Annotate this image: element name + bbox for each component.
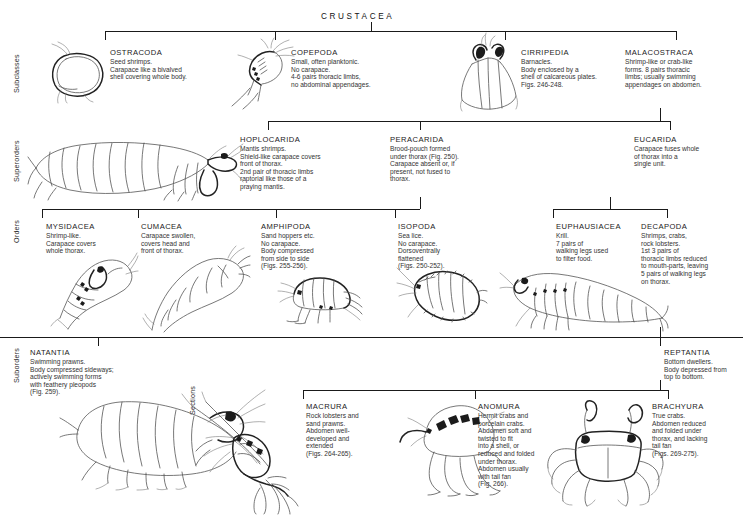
order-tick-isopoda (395, 209, 396, 218)
taxon-desc: Swimming prawns. Body compressed sideway… (30, 358, 114, 396)
taxon-cumacea: CUMACEA Carapace swollen, covers head an… (141, 222, 195, 255)
taxon-hoplocarida: HOPLOCARIDA Mantis shrimps. Shield-like … (240, 135, 321, 191)
subclass-tick-copepoda (275, 31, 276, 40)
crab-illustration (546, 400, 664, 506)
taxon-brachyura: BRACHYURA True crabs. Abdomen reduced an… (652, 402, 707, 458)
order-tick-euphausiacea (553, 209, 554, 218)
section-connector-bar (303, 390, 668, 391)
superorder-tick-hoplocarida (268, 121, 269, 130)
rank-label-superorders: Superorders (12, 140, 21, 182)
taxon-ostracoda: OSTRACODA Seed shrimps. Carapace like a … (110, 48, 187, 81)
section-tick-anomura (475, 390, 476, 399)
taxon-name: MALACOSTRACA (625, 48, 702, 57)
taxon-desc: Shrimp-like or crab-like forms. 8 pairs … (625, 58, 702, 88)
taxon-natantia: NATANTIA Swimming prawns. Body compresse… (30, 348, 114, 396)
subclass-tick-malacostraca (676, 31, 677, 40)
subclass-tick-ostracoda (105, 31, 106, 40)
rank-label-suborders: Suborders (12, 348, 21, 383)
taxon-name: AMPHIPODA (261, 222, 315, 231)
taxon-name: DECAPODA (641, 222, 708, 231)
taxon-peracarida: PERACARIDA Brood-pouch formed under thor… (390, 135, 459, 183)
taxon-amphipoda: AMPHIPODA Sand hoppers etc. No carapace.… (261, 222, 315, 270)
eucarida-stem (610, 197, 611, 209)
taxon-decapoda: DECAPODA Shrimps, crabs, rock lobsters. … (641, 222, 708, 285)
taxon-eucarida: EUCARIDA Carapace fuses whole of thorax … (634, 135, 699, 168)
taxon-name: REPTANTIA (664, 348, 727, 357)
taxon-name: ANOMURA (478, 402, 534, 411)
taxon-desc: Barnacles. Body enclosed by a shell of c… (521, 58, 597, 88)
taxon-name: MYSIDACEA (46, 222, 96, 231)
isopod-illustration (393, 262, 487, 326)
taxon-desc: Rock lobsters and sand prawns. Abdomen w… (306, 412, 359, 458)
peracarida-stem (420, 197, 421, 209)
subclass-tick-cirripedia (505, 31, 506, 40)
taxon-desc: Bottom dwellers. Body depressed from top… (664, 358, 727, 381)
taxon-name: EUCARIDA (634, 135, 699, 144)
rock-lobster-illustration (182, 392, 310, 514)
taxon-mysidacea: MYSIDACEA Shrimp-like. Carapace covers w… (46, 222, 96, 255)
rank-label-orders: Orders (12, 220, 21, 243)
taxon-name: ISOPODA (398, 222, 445, 231)
taxon-desc: Carapace swollen, covers head and front … (141, 232, 195, 255)
crustacea-classification-diagram: CRUSTACEA Subclasses Superorders Orders … (0, 0, 743, 515)
taxon-name: MACRURA (306, 402, 359, 411)
taxon-name: OSTRACODA (110, 48, 187, 57)
order-tick-decapoda (667, 209, 668, 218)
rank-label-subclasses: Subclasses (12, 54, 21, 93)
superorder-connector-bar (268, 121, 671, 122)
taxon-desc: Shrimps, crabs, rock lobsters. 1st 3 pai… (641, 232, 708, 285)
decapoda-stem (660, 327, 661, 337)
mysid-illustration (38, 252, 138, 330)
mantis-shrimp-illustration (28, 130, 243, 202)
ostracod-illustration (44, 42, 114, 104)
taxon-desc: Mantis shrimps. Shield-like carapace cov… (240, 145, 321, 191)
malacostraca-stem (660, 108, 661, 121)
reptantia-stem (660, 380, 661, 390)
subclass-connector-bar (105, 31, 677, 32)
taxon-desc: Shrimp-like. Carapace covers whole thora… (46, 232, 96, 255)
taxon-desc: True crabs. Abdomen reduced and folded u… (652, 412, 707, 458)
root-title: CRUSTACEA (321, 12, 394, 21)
taxon-copepoda: COPEPODA Small, often planktonic. No car… (291, 48, 371, 88)
taxon-name: EUPHAUSIACEA (556, 222, 621, 231)
section-tick-macrura (303, 390, 304, 399)
amphipod-illustration (272, 272, 368, 324)
taxon-reptantia: REPTANTIA Bottom dwellers. Body depresse… (664, 348, 727, 381)
suborder-connector-bar (0, 337, 743, 338)
copepod-illustration (228, 38, 298, 110)
taxon-desc: Krill. 7 pairs of walking legs used to f… (556, 232, 621, 262)
order-tick-amphipoda (276, 209, 277, 218)
barnacle-illustration (452, 38, 524, 112)
taxon-desc: Sea lice. No carapace. Dorsoventrally fl… (398, 232, 445, 270)
taxon-name: HOPLOCARIDA (240, 135, 321, 144)
taxon-cirripedia: CIRRIPEDIA Barnacles. Body enclosed by a… (521, 48, 597, 88)
taxon-malacostraca: MALACOSTRACA Shrimp-like or crab-like fo… (625, 48, 702, 88)
taxon-name: NATANTIA (30, 348, 114, 357)
superorder-tick-peracarida (420, 121, 421, 130)
taxon-name: BRACHYURA (652, 402, 707, 411)
taxon-name: PERACARIDA (390, 135, 459, 144)
taxon-desc: Sand hoppers etc. No carapace. Body comp… (261, 232, 315, 270)
order-connector-bar-eucarida (553, 209, 667, 210)
taxon-desc: Small, often planktonic. No carapace. 4-… (291, 58, 371, 88)
taxon-macrura: MACRURA Rock lobsters and sand prawns. A… (306, 402, 359, 458)
suborder-tick-reptantia (660, 337, 661, 346)
taxon-name: COPEPODA (291, 48, 371, 57)
suborder-tick-natantia (98, 337, 99, 346)
taxon-desc: Carapace fuses whole of thorax into a si… (634, 145, 699, 168)
taxon-anomura: ANOMURA Hermit crabs and porcelain crabs… (478, 402, 534, 488)
taxon-isopoda: ISOPODA Sea lice. No carapace. Dorsovent… (398, 222, 445, 270)
taxon-desc: Seed shrimps. Carapace like a bivalved s… (110, 58, 187, 81)
order-tick-mysidacea (42, 209, 43, 218)
taxon-desc: Brood-pouch formed under thorax (Fig. 25… (390, 145, 459, 183)
superorder-tick-eucarida (670, 121, 671, 130)
taxon-euphausiacea: EUPHAUSIACEA Krill. 7 pairs of walking l… (556, 222, 621, 262)
rank-label-sections: Sections (188, 386, 197, 415)
order-tick-cumacea (138, 209, 139, 218)
cumacean-illustration (130, 248, 250, 332)
taxon-name: CIRRIPEDIA (521, 48, 597, 57)
order-connector-bar-peracarida (42, 209, 420, 210)
taxon-name: CUMACEA (141, 222, 195, 231)
section-tick-brachyura (668, 390, 669, 399)
taxon-desc: Hermit crabs and porcelain crabs. Abdome… (478, 412, 534, 488)
